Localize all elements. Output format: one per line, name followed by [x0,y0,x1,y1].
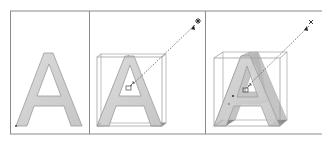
panel-flat [15,53,82,127]
letter-a-flat [16,53,82,126]
letter-a-front [97,56,162,126]
anchor-dot [15,125,17,127]
figure-canvas [0,0,331,144]
extrude-illustration [0,0,331,144]
vanishing-line [131,24,196,86]
extrude-handle-icon[interactable] [126,82,134,90]
panel-extrude-shallow [97,18,201,126]
vanishing-point-x-icon[interactable] [304,20,313,31]
panel-extrude-deep [214,20,313,126]
